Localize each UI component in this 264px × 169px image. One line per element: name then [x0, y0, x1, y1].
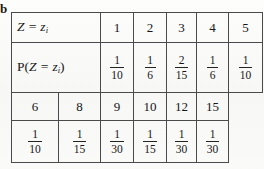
fraction: 16 [145, 54, 156, 82]
fraction: 110 [28, 128, 42, 156]
fraction-bar [175, 141, 189, 142]
question-part-label: b [0, 2, 9, 16]
fraction-bar [143, 141, 157, 142]
fraction: 115 [73, 128, 87, 156]
table-rule-right-edge [262, 12, 263, 93]
variable-subscript: i [46, 25, 48, 35]
fraction: 115 [143, 128, 157, 156]
table-cell-p-12: 130 [167, 121, 196, 162]
table-cell-p-1: 110 [101, 43, 133, 92]
table-cell-p-3: 215 [167, 43, 196, 92]
fraction-bar [110, 67, 124, 68]
table-cell-z-1: 1 [101, 13, 133, 42]
fraction-bar [28, 141, 42, 142]
fraction: 130 [175, 128, 189, 156]
table-cell-p-6: 110 [12, 121, 58, 162]
table-cell-z-2: 2 [134, 13, 166, 42]
table-cell-p-9: 130 [101, 121, 133, 162]
fraction: 215 [175, 54, 189, 82]
table-cell-p-4: 16 [197, 43, 228, 92]
table-cell-p-2: 16 [134, 43, 166, 92]
row-label-variable: Z = zi [12, 13, 105, 42]
table-cell-z-12: 12 [167, 93, 196, 120]
probability-suffix: ) [60, 59, 65, 74]
fraction-bar [110, 141, 124, 142]
table-cell-z-9: 9 [101, 93, 133, 120]
fraction: 130 [110, 128, 124, 156]
fraction: 130 [206, 128, 220, 156]
row-label-probability: P(Z = zi) [12, 43, 105, 92]
table-cell-z-8: 8 [59, 93, 100, 120]
fraction-bar [145, 67, 156, 68]
fraction-bar [206, 141, 220, 142]
probability-prefix: P( [17, 59, 29, 74]
table-cell-z-6: 6 [12, 93, 58, 120]
table-cell-z-15: 15 [197, 93, 228, 120]
probability-variable: Z = z [29, 59, 58, 74]
fraction-bar [239, 67, 253, 68]
fraction-bar [207, 67, 218, 68]
table-cell-z-3: 3 [167, 13, 196, 42]
fraction: 110 [110, 54, 124, 82]
table-cell-p-15: 130 [197, 121, 228, 162]
table-cell-z-4: 4 [197, 13, 228, 42]
table-cell-z-5: 5 [229, 13, 262, 42]
fraction-bar [175, 67, 189, 68]
table-cell-z-10: 10 [134, 93, 166, 120]
table-cell-p-10: 115 [134, 121, 166, 162]
fraction-bar [73, 141, 87, 142]
table-cell-p-8: 115 [59, 121, 100, 162]
table-cell-p-5: 110 [229, 43, 262, 92]
fraction: 110 [239, 54, 253, 82]
variable-symbol: Z = z [17, 19, 46, 34]
fraction: 16 [207, 54, 218, 82]
